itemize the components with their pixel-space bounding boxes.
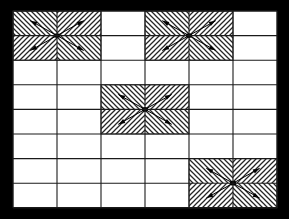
grid-cell[interactable] [145,159,189,184]
grid-cell[interactable] [13,159,57,184]
grid-cell[interactable] [233,159,277,184]
grid-cell[interactable] [189,60,233,85]
grid-cell[interactable] [57,183,101,208]
grid-cell[interactable] [101,85,145,110]
grid-cell[interactable] [233,11,277,36]
grid-cell[interactable] [57,134,101,159]
grid-cell[interactable] [101,60,145,85]
grid-diagram-canvas [0,0,289,219]
grid-cell[interactable] [57,36,101,61]
grid-cell[interactable] [145,85,189,110]
grid-cell[interactable] [101,109,145,134]
grid-cell-layer [13,11,277,208]
grid-cell[interactable] [57,159,101,184]
grid-cell[interactable] [189,183,233,208]
grid-cell[interactable] [145,134,189,159]
grid-cell[interactable] [13,109,57,134]
grid-cell[interactable] [57,85,101,110]
grid-cell[interactable] [101,159,145,184]
grid-cell[interactable] [13,134,57,159]
grid-cell[interactable] [145,183,189,208]
grid-cell[interactable] [233,134,277,159]
grid-cell[interactable] [233,85,277,110]
grid-cell[interactable] [13,36,57,61]
grid-cell[interactable] [13,60,57,85]
grid-cell[interactable] [189,85,233,110]
grid-cell[interactable] [57,109,101,134]
grid-cell[interactable] [189,36,233,61]
grid-cell[interactable] [145,60,189,85]
grid-cell[interactable] [233,109,277,134]
grid-cell[interactable] [101,36,145,61]
grid-cell[interactable] [101,183,145,208]
grid-cell[interactable] [57,11,101,36]
grid-cell[interactable] [145,109,189,134]
grid-cell[interactable] [189,11,233,36]
grid-cell[interactable] [13,85,57,110]
grid-cell[interactable] [101,11,145,36]
grid-cell[interactable] [13,183,57,208]
grid-cell[interactable] [13,11,57,36]
grid-cell[interactable] [233,183,277,208]
grid-cell[interactable] [57,60,101,85]
grid-cell[interactable] [233,60,277,85]
grid-cell[interactable] [189,109,233,134]
grid-cell[interactable] [189,134,233,159]
grid-cell[interactable] [101,134,145,159]
grid-cell[interactable] [145,11,189,36]
grid-cell[interactable] [145,36,189,61]
grid-cell[interactable] [233,36,277,61]
figure-root [0,0,289,219]
grid-cell[interactable] [189,159,233,184]
